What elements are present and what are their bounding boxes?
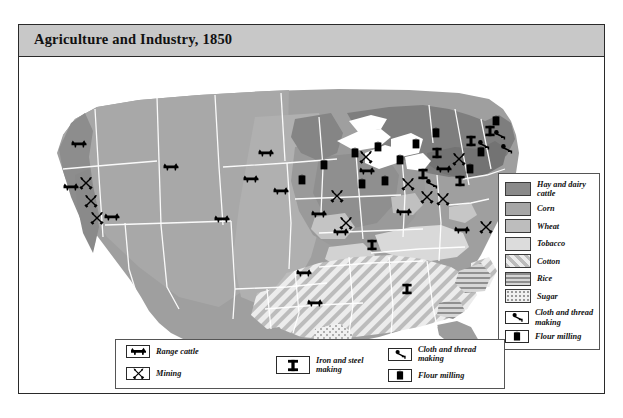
flour-milling-symbol [478, 147, 485, 157]
area-legend-panel: Hay and dairy cattle Corn Wheat Tobacco … [498, 173, 600, 350]
flour-milling-symbol [397, 155, 404, 165]
symlegend-label-iron: Iron and steel making [316, 356, 388, 374]
flour-milling-symbol [375, 142, 382, 152]
flour-milling-symbol [382, 176, 389, 186]
flour-milling-symbol [299, 175, 306, 185]
legend-swatch-wheat [505, 219, 531, 233]
page-title: Agriculture and Industry, 1850 [34, 31, 232, 48]
legend-swatch-corn [505, 202, 531, 216]
legend-swatch-hay [505, 182, 531, 196]
map-title-bar: Agriculture and Industry, 1850 [19, 25, 604, 57]
flour-milling-symbol [493, 116, 500, 126]
flour-milling-symbol [467, 164, 474, 174]
flour-milling-symbol [321, 160, 328, 170]
flour-milling-symbol [352, 148, 359, 158]
legend-label-cloth: Cloth and thread making [535, 308, 594, 326]
symlegend-label-cattle: Range cattle [156, 347, 199, 356]
crossed-pick-hammer-icon [126, 367, 150, 380]
symlegend-item-iron: Iron and steel making [276, 356, 388, 374]
legend-item-flour: Flour milling [505, 330, 594, 343]
map-figure: Agriculture and Industry, 1850 [18, 24, 605, 394]
spindle-icon-2 [388, 348, 412, 361]
symlegend-item-flour: Flour milling [388, 369, 464, 382]
symlegend-item-mining: Mining [126, 367, 181, 380]
legend-item-corn: Corn [505, 202, 594, 216]
legend-label-sugar: Sugar [537, 292, 558, 301]
flour-milling-symbol [359, 179, 366, 189]
legend-item-sugar: Sugar [505, 289, 594, 303]
cattle-icon [126, 345, 150, 358]
legend-item-cotton: Cotton [505, 254, 594, 268]
legend-swatch-tobacco [505, 237, 531, 251]
legend-swatch-cotton [505, 254, 531, 268]
symbol-legend-panel: Range cattle Mining Iron and steel makin… [115, 339, 505, 389]
spindle-icon [505, 311, 529, 324]
legend-item-wheat: Wheat [505, 219, 594, 233]
legend-swatch-sugar [505, 289, 531, 303]
legend-item-rice: Rice [505, 272, 594, 286]
i-beam-icon [276, 356, 310, 374]
symlegend-label-mining: Mining [156, 369, 181, 378]
legend-label-rice: Rice [537, 274, 552, 283]
legend-swatch-rice [505, 272, 531, 286]
legend-item-tobacco: Tobacco [505, 237, 594, 251]
legend-label-tobacco: Tobacco [537, 239, 565, 248]
legend-label-hay: Hay and dairy cattle [537, 180, 594, 198]
legend-label-flour: Flour milling [535, 332, 581, 341]
legend-item-hay: Hay and dairy cattle [505, 180, 594, 198]
symlegend-item-cloth: Cloth and thread making [388, 345, 502, 363]
legend-label-corn: Corn [537, 204, 555, 213]
flour-sack-icon [505, 330, 529, 343]
flour-milling-symbol [433, 128, 440, 138]
symlegend-label-cloth: Cloth and thread making [418, 345, 502, 363]
legend-item-cloth: Cloth and thread making [505, 308, 594, 326]
symlegend-label-flour: Flour milling [418, 371, 464, 380]
flour-sack-icon-2 [388, 369, 412, 382]
legend-label-cotton: Cotton [537, 257, 560, 266]
flour-milling-symbol [413, 139, 420, 149]
legend-label-wheat: Wheat [537, 222, 559, 231]
symlegend-item-cattle: Range cattle [126, 345, 199, 358]
